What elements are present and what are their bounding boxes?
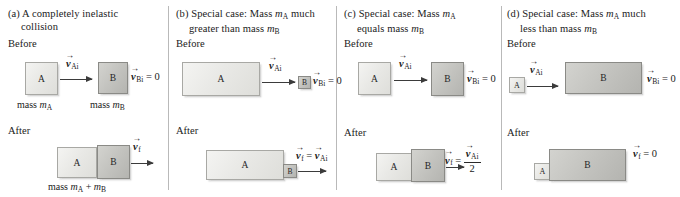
panel-d-after-box-b: B	[549, 149, 626, 181]
panel-d-before-box-a-label: A	[514, 81, 520, 90]
panel-d-after-box-b-label: B	[584, 160, 590, 170]
panel-a-after-velocity-f: vf	[133, 141, 141, 154]
panel-c-after-box-b: B	[411, 149, 445, 182]
panel-b-after-label: After	[176, 125, 198, 137]
panel-d-before-velocity-a: vAi	[530, 64, 543, 77]
panel-c-after-label: After	[344, 127, 366, 139]
panel-d-after-label: After	[507, 127, 529, 139]
panel-b-after-box-a: A	[206, 150, 284, 180]
panel-b-before-arrow	[262, 82, 295, 83]
panel-c-fraction-numerator: vAi	[464, 148, 481, 164]
panel-b-before-box-b-label: B	[302, 78, 307, 87]
panel-c-before-box-a: A	[358, 62, 391, 95]
panel-a-before-box-b: B	[98, 62, 128, 94]
panel-d-caption-line1: (d) Special case: Mass mA much	[507, 8, 646, 19]
panel-a-before-box-a: A	[25, 62, 58, 95]
figure-inelastic-collision-cases: (a) A completely inelastic collision Bef…	[0, 0, 680, 197]
panel-b-after-velocity-f: vf = vAi	[296, 150, 328, 163]
panel-d-before-box-b: B	[565, 62, 642, 94]
panel-b-after-box-b: B	[283, 164, 297, 178]
panel-a-before-velocity-b: vBi = 0	[131, 71, 160, 84]
panel-c-fraction-denominator: 2	[464, 163, 481, 174]
panel-a-before-arrow	[60, 79, 92, 80]
panel-d-before-velocity-b: vBi = 0	[647, 73, 676, 86]
panel-c-before-box-b-label: B	[444, 74, 450, 84]
panel-b-before-box-a: A	[182, 62, 260, 96]
panel-a-before-velocity-a: vAi	[66, 58, 79, 71]
panel-b-after-arrow	[298, 171, 326, 172]
panel-c-after-box-a-label: A	[391, 162, 398, 172]
panel-c-after-box-a: A	[376, 153, 412, 181]
panel-b-before-box-b: B	[298, 76, 311, 89]
panel-b-before-label: Before	[176, 38, 205, 50]
panel-d-caption: (d) Special case: Mass mA much less than…	[507, 8, 646, 38]
panel-d-after-velocity-f: vf = 0	[633, 148, 657, 161]
panel-c-velocity-fraction: vAi 2	[464, 148, 481, 175]
panel-d-after-box-a-label: A	[540, 167, 546, 176]
panel-d-before-box-a: A	[509, 77, 525, 93]
panel-c-before-box-a-label: A	[371, 74, 378, 84]
panel-a-after-arrow	[131, 163, 153, 164]
panel-a-after-box-a-label: A	[74, 158, 81, 168]
panel-a-after-box-a: A	[57, 147, 97, 178]
panel-a-total-mass-label: mass mA + mB	[48, 181, 106, 194]
panel-a-caption: (a) A completely inelastic collision	[8, 8, 118, 33]
panel-c-before-arrow	[394, 80, 427, 81]
panel-b: (b) Special case: Mass mA much greater t…	[168, 0, 336, 197]
panel-c-caption-line1: (c) Special case: Mass mA	[344, 8, 456, 19]
panel-d-before-box-b-label: B	[600, 73, 606, 83]
panel-c-before-box-b: B	[431, 62, 464, 96]
panel-a-after-box-b-label: B	[110, 157, 116, 167]
panel-a-before-label: Before	[8, 38, 37, 50]
panel-b-before-velocity-a: vAi	[269, 60, 282, 73]
panel-d-before-label: Before	[507, 38, 536, 50]
panel-a-before-box-a-label: A	[38, 74, 45, 84]
panel-c-before-label: Before	[344, 38, 373, 50]
panel-a-mass-b-label: mass mB	[90, 99, 125, 112]
panel-a-before-box-b-label: B	[110, 73, 116, 83]
panel-b-caption-line1: (b) Special case: Mass mA much	[176, 8, 315, 19]
panel-a-after-label: After	[8, 125, 30, 137]
panel-a-mass-a-label: mass mA	[17, 99, 52, 112]
panel-a-caption-line2: collision	[8, 21, 118, 34]
panel-a-after-box-b: B	[97, 145, 130, 179]
panel-b-caption-line2: greater than mass mB	[176, 23, 315, 38]
panel-c-caption: (c) Special case: Mass mA equals mass mB	[344, 8, 456, 38]
panel-a: (a) A completely inelastic collision Bef…	[0, 0, 168, 197]
panel-d-caption-line2: less than mass mB	[507, 23, 646, 38]
panel-d-before-arrow	[527, 86, 558, 87]
panel-c: (c) Special case: Mass mA equals mass mB…	[336, 0, 501, 197]
panel-d: (d) Special case: Mass mA much less than…	[501, 0, 680, 197]
panel-c-before-velocity-a: vAi	[399, 58, 412, 71]
panel-b-before-box-a-label: A	[218, 74, 225, 84]
panel-b-after-box-b-label: B	[287, 167, 292, 176]
panel-a-caption-line1: (a) A completely inelastic	[8, 8, 118, 19]
panel-c-after-velocity-f: vf = vAi 2	[445, 148, 481, 175]
panel-c-before-velocity-b: vBi = 0	[467, 73, 496, 86]
panel-c-after-box-b-label: B	[425, 161, 431, 171]
panel-c-caption-line2: equals mass mB	[344, 23, 456, 38]
panel-b-caption: (b) Special case: Mass mA much greater t…	[176, 8, 315, 38]
panel-b-after-box-a-label: A	[242, 160, 249, 170]
